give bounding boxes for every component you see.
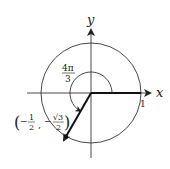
- angle-label-denominator: 3: [65, 74, 71, 84]
- terminal-point: [64, 134, 68, 138]
- x-axis-label: x: [156, 85, 164, 100]
- point-label-close-paren: ): [64, 113, 70, 132]
- point-label-x-den: 2: [29, 123, 34, 132]
- angle-label-numerator: 4π: [62, 63, 74, 73]
- point-label-y-num: √3: [53, 113, 63, 122]
- radius-label: 1: [140, 99, 146, 109]
- point-label-x-sign: −: [20, 116, 28, 126]
- point-label-y-den: 2: [56, 123, 61, 132]
- y-axis-label: y: [86, 12, 95, 27]
- unit-circle-diagram: y x 1 4π 3 ( − 1 2 , − √3 2 ): [0, 0, 170, 169]
- point-label-y-sign: −: [44, 116, 52, 126]
- point-label-x-num: 1: [29, 113, 34, 122]
- point-label-comma: ,: [38, 119, 41, 130]
